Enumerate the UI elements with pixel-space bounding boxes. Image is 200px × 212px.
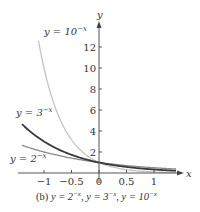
y-tick-label: 2: [90, 147, 96, 158]
x-axis-arrow-icon: [177, 171, 184, 176]
exponential-chart: −1−0.500.5124681012 x y y = 10−x y = 3−x…: [0, 0, 200, 212]
y-tick-label: 6: [90, 105, 96, 116]
label-curve-10: y = 10−x: [43, 25, 87, 37]
y-tick-label: 12: [83, 42, 96, 53]
x-tick-label: 1: [151, 176, 157, 187]
x-axis-label: x: [186, 168, 192, 179]
ticks-group: −1−0.500.5124681012: [37, 42, 158, 188]
chart-caption: (b) y = 2−x, y = 3−x, y = 10−x: [36, 190, 158, 203]
y-tick-label: 8: [90, 84, 96, 95]
label-curve-3: y = 3−x: [15, 106, 53, 118]
x-tick-label: −0.5: [59, 176, 83, 187]
x-tick-label: 0: [96, 176, 102, 187]
x-tick-label: 0.5: [119, 176, 135, 187]
x-tick-label: −1: [37, 176, 52, 187]
curve-base-10: [39, 41, 177, 173]
y-tick-label: 4: [90, 126, 96, 137]
y-tick-label: 10: [83, 63, 96, 74]
y-axis-arrow-icon: [97, 21, 102, 28]
y-axis-label: y: [96, 9, 103, 20]
label-curve-2: y = 2−x: [9, 152, 47, 164]
